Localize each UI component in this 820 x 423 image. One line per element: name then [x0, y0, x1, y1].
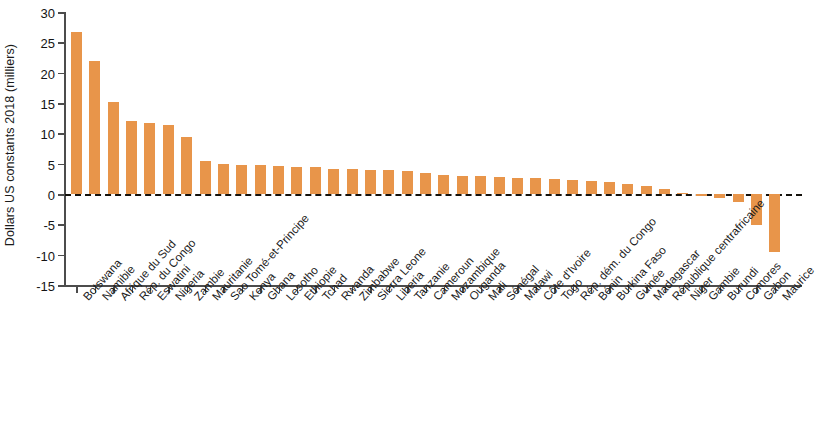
y-tick-mark: [58, 224, 65, 226]
bar: [126, 121, 137, 194]
y-tick-mark: [58, 194, 65, 196]
bar: [696, 194, 707, 196]
bar: [567, 180, 578, 194]
y-tick-mark: [58, 133, 65, 135]
bar: [530, 178, 541, 194]
bar: [677, 193, 688, 194]
bar: [402, 171, 413, 194]
bar: [347, 169, 358, 194]
bar: [457, 176, 468, 194]
bar: [218, 164, 229, 194]
bar: [438, 175, 449, 194]
bar: [475, 176, 486, 194]
y-tick-label: 10: [41, 127, 55, 142]
bar: [494, 177, 505, 194]
bar: [181, 137, 192, 194]
bar: [200, 161, 211, 194]
bar: [641, 186, 652, 194]
bar: [89, 61, 100, 194]
bar: [236, 165, 247, 194]
y-tick-label: 25: [41, 36, 55, 51]
y-tick-mark: [58, 164, 65, 166]
bar: [273, 166, 284, 194]
y-tick-label: -5: [43, 218, 55, 233]
bar: [365, 170, 376, 194]
bar-chart: Dollars US constants 2018 (milliers) 302…: [0, 0, 820, 423]
y-tick-mark: [58, 285, 65, 287]
bar: [71, 32, 82, 194]
bar: [714, 194, 725, 198]
y-tick-label: 0: [48, 188, 55, 203]
bar: [328, 169, 339, 194]
bar: [310, 167, 321, 194]
y-tick-label: -15: [36, 279, 55, 294]
y-tick-label: 15: [41, 97, 55, 112]
bar: [512, 178, 523, 194]
bar: [622, 184, 633, 194]
bar: [163, 125, 174, 194]
zero-reference-line: [65, 194, 802, 196]
y-tick-mark: [58, 42, 65, 44]
bar: [549, 179, 560, 194]
y-tick-mark: [58, 255, 65, 257]
y-tick-label: 20: [41, 66, 55, 81]
bar: [383, 170, 394, 194]
y-tick-mark: [58, 73, 65, 75]
bar: [586, 181, 597, 194]
y-axis-title: Dollars US constants 2018 (milliers): [2, 0, 18, 290]
bar: [255, 165, 266, 194]
bar: [144, 123, 155, 194]
y-tick-mark: [58, 12, 65, 14]
y-tick-label: 5: [48, 157, 55, 172]
bar: [420, 173, 431, 194]
x-tick-mark: [76, 285, 77, 293]
bar: [291, 167, 302, 194]
bar: [659, 189, 670, 194]
bar: [604, 182, 615, 194]
bar: [108, 102, 119, 194]
bar: [769, 194, 780, 252]
y-tick-label: -10: [36, 248, 55, 263]
y-tick-mark: [58, 103, 65, 105]
y-tick-label: 30: [41, 6, 55, 21]
y-axis-line: [64, 12, 66, 285]
bar: [733, 194, 744, 202]
